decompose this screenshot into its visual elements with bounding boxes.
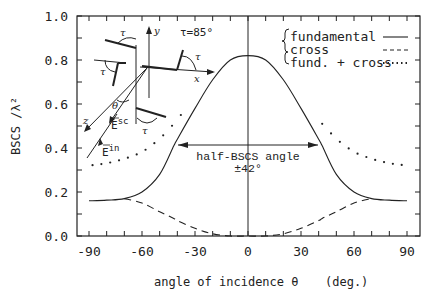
legend-brace bbox=[282, 29, 289, 64]
svg-text:0.8: 0.8 bbox=[45, 53, 68, 68]
inset-tau-4: τ bbox=[142, 125, 148, 136]
svg-text:-60: -60 bbox=[130, 244, 153, 259]
inset-tau-1: τ bbox=[120, 27, 126, 38]
svg-text:0.2: 0.2 bbox=[45, 185, 68, 200]
svg-text:0.6: 0.6 bbox=[45, 97, 68, 112]
inset-axis-x: x bbox=[194, 73, 200, 84]
inset-tau-value: τ=85° bbox=[180, 26, 213, 39]
half-bscs-value: ±42° bbox=[234, 162, 262, 175]
legend-fund-cross: fund. + cross bbox=[290, 55, 392, 70]
svg-text:-90: -90 bbox=[77, 244, 100, 259]
svg-text:-30: -30 bbox=[183, 244, 206, 259]
svg-text:90: 90 bbox=[399, 244, 415, 259]
svg-text:1.0: 1.0 bbox=[45, 9, 68, 24]
inset-tau-3: τ bbox=[195, 51, 201, 62]
legend: fundamental cross fund. + cross bbox=[282, 29, 408, 70]
svg-text:0.0: 0.0 bbox=[45, 229, 68, 244]
inset-axis-y: y bbox=[153, 25, 160, 36]
inset-tau-2: τ bbox=[100, 66, 106, 77]
svg-text:30: 30 bbox=[293, 244, 309, 259]
x-axis-unit: (deg.) bbox=[325, 275, 368, 289]
svg-text:0.4: 0.4 bbox=[45, 141, 69, 156]
bscs-chart: 0.00.20.40.60.81.0 -90-60-300306090 half… bbox=[0, 0, 434, 300]
antenna-inset-diagram bbox=[84, 26, 215, 158]
inset-theta: θ bbox=[112, 100, 118, 111]
svg-text:60: 60 bbox=[346, 244, 362, 259]
x-axis-title: angle of incidence θ bbox=[154, 275, 299, 289]
y-tick-labels: 0.00.20.40.60.81.0 bbox=[45, 9, 69, 244]
inset-axis-z: z bbox=[82, 115, 89, 126]
x-tick-labels: -90-60-300306090 bbox=[77, 244, 415, 259]
y-axis-title: BSCS /λ² bbox=[9, 97, 23, 155]
svg-text:0: 0 bbox=[244, 244, 252, 259]
